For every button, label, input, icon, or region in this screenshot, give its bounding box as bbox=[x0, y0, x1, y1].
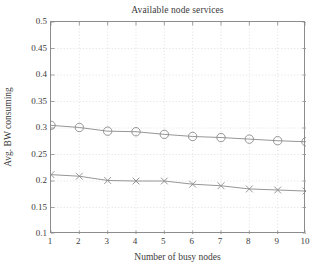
y-axis-tick-labels: 0.10.150.20.250.30.350.40.450.5 bbox=[0, 0, 47, 276]
y-tick-label: 0.5 bbox=[1, 16, 47, 26]
x-tick-label: 10 bbox=[290, 236, 319, 246]
plot-area bbox=[50, 21, 305, 233]
series-circle bbox=[51, 121, 306, 146]
horizontal-gridlines bbox=[51, 49, 306, 208]
x-tick-label: 9 bbox=[262, 236, 292, 246]
axis-tick-marks bbox=[51, 22, 306, 234]
x-tick-label: 2 bbox=[63, 236, 93, 246]
plot-canvas bbox=[51, 22, 306, 234]
x-tick-label: 7 bbox=[205, 236, 235, 246]
x-tick-label: 5 bbox=[148, 236, 178, 246]
x-tick-label: 8 bbox=[233, 236, 263, 246]
series-x bbox=[51, 171, 306, 194]
chart-title: Available node services bbox=[50, 5, 305, 15]
y-tick-label: 0.2 bbox=[1, 175, 47, 185]
x-axis-title: Number of busy nodes bbox=[50, 252, 305, 262]
x-tick-label: 1 bbox=[35, 236, 65, 246]
x-tick-label: 4 bbox=[120, 236, 150, 246]
y-tick-label: 0.3 bbox=[1, 122, 47, 132]
x-tick-label: 6 bbox=[177, 236, 207, 246]
y-tick-label: 0.45 bbox=[1, 43, 47, 53]
x-tick-label: 3 bbox=[92, 236, 122, 246]
y-tick-label: 0.4 bbox=[1, 69, 47, 79]
y-tick-label: 0.15 bbox=[1, 202, 47, 212]
x-axis-tick-labels: 12345678910 bbox=[0, 236, 319, 252]
chart-figure: Available node services Avg. BW consumin… bbox=[0, 0, 319, 276]
y-tick-label: 0.25 bbox=[1, 149, 47, 159]
y-tick-label: 0.35 bbox=[1, 96, 47, 106]
data-series-layer bbox=[51, 121, 306, 194]
